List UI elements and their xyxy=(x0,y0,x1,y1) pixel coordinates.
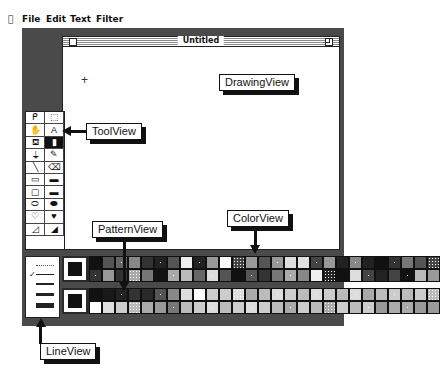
color-swatch[interactable] xyxy=(362,269,375,282)
tool-eraser[interactable]: ⌫ xyxy=(45,162,64,174)
color-swatch[interactable] xyxy=(284,256,297,269)
line-width-4[interactable] xyxy=(36,303,54,308)
color-swatch[interactable] xyxy=(128,256,141,269)
menu-edit[interactable]: Edit xyxy=(46,14,66,24)
pattern-swatch[interactable] xyxy=(297,288,310,301)
pattern-swatch[interactable] xyxy=(362,288,375,301)
pattern-swatch[interactable] xyxy=(284,301,297,314)
pattern-swatch[interactable] xyxy=(271,288,284,301)
pattern-swatch[interactable] xyxy=(388,301,401,314)
color-swatch[interactable] xyxy=(284,269,297,282)
color-swatch[interactable] xyxy=(193,256,206,269)
pattern-swatch[interactable] xyxy=(349,288,362,301)
color-swatch[interactable] xyxy=(362,256,375,269)
color-swatch[interactable] xyxy=(323,256,336,269)
color-swatch[interactable] xyxy=(167,269,180,282)
color-swatch[interactable] xyxy=(180,256,193,269)
color-swatch[interactable] xyxy=(349,256,362,269)
color-swatch[interactable] xyxy=(115,256,128,269)
color-swatch[interactable] xyxy=(115,269,128,282)
line-width-1[interactable] xyxy=(36,274,54,275)
pattern-swatch[interactable] xyxy=(310,288,323,301)
color-swatch[interactable] xyxy=(154,269,167,282)
tool-rectangle[interactable]: ▭ xyxy=(26,174,45,186)
pattern-swatch[interactable] xyxy=(310,301,323,314)
tool-brush[interactable]: ⍊ xyxy=(26,149,45,161)
color-swatch[interactable] xyxy=(141,256,154,269)
color-swatch[interactable] xyxy=(232,269,245,282)
pattern-swatch[interactable] xyxy=(232,301,245,314)
color-swatch[interactable] xyxy=(141,269,154,282)
pattern-swatch[interactable] xyxy=(245,288,258,301)
color-swatch[interactable] xyxy=(427,269,440,282)
pattern-swatch[interactable] xyxy=(271,301,284,314)
color-swatch[interactable] xyxy=(245,269,258,282)
close-box-icon[interactable] xyxy=(69,38,77,46)
tool-lasso[interactable]: ᑭ xyxy=(26,112,45,124)
line-width-dotted[interactable] xyxy=(36,265,54,266)
title-bar[interactable]: Untitled xyxy=(63,37,339,47)
pattern-swatch[interactable] xyxy=(336,301,349,314)
color-swatch[interactable] xyxy=(219,269,232,282)
pattern-swatch[interactable] xyxy=(349,301,362,314)
pattern-swatch[interactable] xyxy=(401,288,414,301)
tool-hand[interactable]: ✋ xyxy=(26,124,45,136)
pattern-swatch[interactable] xyxy=(180,288,193,301)
color-swatch[interactable] xyxy=(323,269,336,282)
tool-freeform-shape[interactable]: ♡ xyxy=(26,211,45,223)
color-swatch[interactable] xyxy=(414,256,427,269)
tool-marquee-select[interactable]: ⬚ xyxy=(45,112,64,124)
pattern-swatch[interactable] xyxy=(167,301,180,314)
color-swatch[interactable] xyxy=(180,269,193,282)
pattern-swatch[interactable] xyxy=(258,288,271,301)
tool-pencil[interactable]: ✎ xyxy=(45,149,64,161)
pattern-swatch[interactable] xyxy=(414,301,427,314)
tool-spray-can[interactable]: ▮ xyxy=(45,137,64,149)
color-swatch[interactable] xyxy=(401,269,414,282)
pattern-swatch[interactable] xyxy=(414,288,427,301)
color-swatch[interactable] xyxy=(297,269,310,282)
pattern-swatch[interactable] xyxy=(427,288,440,301)
pattern-swatch[interactable] xyxy=(193,288,206,301)
pattern-swatch[interactable] xyxy=(245,301,258,314)
pattern-swatch[interactable] xyxy=(102,288,115,301)
pattern-swatch[interactable] xyxy=(102,301,115,314)
pattern-swatch[interactable] xyxy=(336,288,349,301)
pattern-swatch[interactable] xyxy=(128,301,141,314)
color-swatch[interactable] xyxy=(128,269,141,282)
color-swatch[interactable] xyxy=(167,256,180,269)
menu-filter[interactable]: Filter xyxy=(96,14,123,24)
color-swatch[interactable] xyxy=(206,269,219,282)
line-width-3[interactable] xyxy=(36,293,54,296)
pattern-swatch[interactable] xyxy=(427,301,440,314)
pattern-swatch[interactable] xyxy=(89,301,102,314)
color-swatch[interactable] xyxy=(271,269,284,282)
color-swatch[interactable] xyxy=(414,269,427,282)
color-swatch[interactable] xyxy=(258,269,271,282)
pattern-swatch[interactable] xyxy=(375,288,388,301)
color-swatch[interactable] xyxy=(219,256,232,269)
pattern-swatch[interactable] xyxy=(232,288,245,301)
color-swatch[interactable] xyxy=(232,256,245,269)
pattern-swatch[interactable] xyxy=(206,288,219,301)
pattern-swatch[interactable] xyxy=(284,288,297,301)
pattern-swatch[interactable] xyxy=(206,301,219,314)
color-swatch[interactable] xyxy=(154,256,167,269)
tool-line-tool[interactable]: ╲ xyxy=(26,162,45,174)
color-swatch[interactable] xyxy=(336,256,349,269)
pattern-swatch[interactable] xyxy=(362,301,375,314)
pattern-swatch[interactable] xyxy=(89,288,102,301)
pattern-swatch[interactable] xyxy=(388,288,401,301)
pattern-swatch[interactable] xyxy=(141,288,154,301)
color-swatch[interactable] xyxy=(310,256,323,269)
apple-menu-icon[interactable]:  xyxy=(8,14,13,24)
pattern-swatch[interactable] xyxy=(219,288,232,301)
pattern-swatch[interactable] xyxy=(258,301,271,314)
tool-filled-freeform-shape[interactable]: ♥ xyxy=(45,211,64,223)
pattern-swatch[interactable] xyxy=(193,301,206,314)
tool-polygon[interactable]: ◿ xyxy=(26,224,45,236)
pattern-swatch[interactable] xyxy=(375,301,388,314)
pattern-swatch[interactable] xyxy=(128,288,141,301)
pattern-swatch[interactable] xyxy=(323,301,336,314)
color-swatch[interactable] xyxy=(375,256,388,269)
